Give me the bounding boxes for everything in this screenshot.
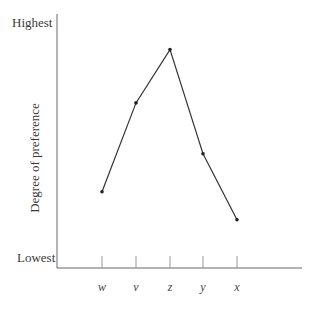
data-point [168,48,172,52]
y-axis-title: Degree of preference [27,98,43,218]
data-point [134,101,138,105]
preference-line [102,50,237,220]
data-point [201,152,205,156]
x-tick-label: z [160,280,180,295]
x-tick-label: x [227,280,247,295]
y-top-label: Highest [12,15,52,31]
x-tick-label: y [193,280,213,295]
x-tick-label: w [92,280,112,295]
y-bottom-label: Lowest [17,250,55,266]
data-points [100,48,239,222]
data-point [235,218,239,222]
x-tick-label: v [126,280,146,295]
data-point [100,190,104,194]
x-ticks [102,256,237,268]
